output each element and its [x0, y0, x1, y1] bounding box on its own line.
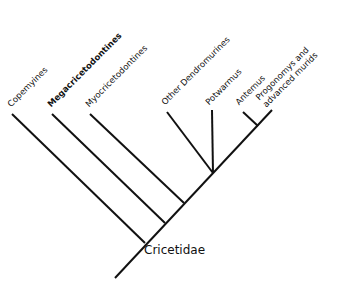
root-label-cricetidae: Cricetidae — [144, 243, 205, 257]
cladogram-branches — [0, 0, 348, 284]
branch-copemyines — [12, 114, 145, 243]
branch-antemus — [243, 112, 258, 126]
branch-myocricetodontines — [90, 114, 184, 203]
branch-potwarmus — [212, 110, 213, 173]
branch-other-dendromurines — [167, 112, 213, 173]
cladogram: Copemyines Megacricetodontines Myocricet… — [0, 0, 348, 284]
